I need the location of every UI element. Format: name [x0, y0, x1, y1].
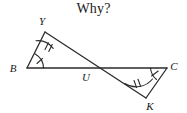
angle-tick-C-1 [152, 71, 159, 76]
diagram-canvas: Why? [0, 0, 187, 113]
angle-arc-C [151, 68, 157, 80]
vertex-label-C: C [170, 60, 178, 72]
angle-tick-Y-1 [45, 43, 48, 50]
vertex-label-B: B [10, 62, 17, 74]
segment-YK [45, 32, 146, 98]
vertex-label-Y: Y [39, 15, 47, 27]
vertex-label-K: K [145, 100, 154, 112]
vertex-label-U: U [82, 71, 91, 83]
angle-tick-K-2 [138, 79, 141, 86]
angle-mark-C [151, 68, 159, 80]
angle-mark-B [35, 54, 43, 68]
geometry-figure: B Y U C K [0, 0, 187, 113]
